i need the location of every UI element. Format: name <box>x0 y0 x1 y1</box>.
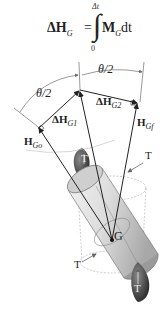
t-label-bottom-right: T <box>134 282 141 294</box>
t-label-top-right: T <box>145 149 152 161</box>
g-label: G <box>114 229 123 244</box>
delta-h-g2-label: ΔHG2 <box>96 95 121 110</box>
h-go-label: HGo <box>24 135 42 150</box>
h-gf-label: HGf <box>137 116 154 131</box>
theta-left-label: θ/2 <box>36 86 51 101</box>
theta-right-label: θ/2 <box>98 62 113 77</box>
t-label-top-left: T <box>81 152 88 164</box>
t-label-bottom-left: T <box>74 258 81 270</box>
delta-h-g1-label: ΔHG1 <box>52 113 77 128</box>
